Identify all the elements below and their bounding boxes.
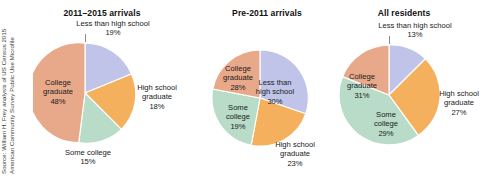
pie-chart-panel-all-residents: All residents Less than high school 13% … [324, 0, 484, 176]
label-some-college-pct: 15% [43, 157, 133, 166]
source-credit-line-2: American Community Survey Public Use Mic… [8, 29, 16, 176]
label-less-than-high-school: Less than high school 19% [52, 19, 174, 38]
chart-title: 2011–2015 arrivals [18, 8, 180, 18]
label-high-school-graduate: High school graduate 23% [266, 140, 324, 168]
pie-chart-panel-pre-2011-arrivals: Pre-2011 arrivals Less than high school … [174, 0, 324, 176]
label-some-college: Some college 15% [43, 148, 133, 167]
chart-title: All residents [324, 8, 484, 18]
label-high-school-graduate-pct: 27% [432, 108, 484, 117]
label-high-school-graduate-name2: graduate [280, 149, 310, 158]
label-less-than-high-school-name: Less than high school [378, 21, 451, 30]
source-credit-line-1: Source: William H. Frey analysis of US C… [0, 29, 8, 176]
pie-svg [210, 48, 310, 148]
source-credit: Source: William H. Frey analysis of US C… [0, 0, 18, 176]
label-less-than-high-school-pct: 19% [52, 28, 174, 37]
label-less-than-high-school: Less than high school 13% [354, 21, 476, 40]
label-high-school-graduate: High school graduate 27% [432, 89, 484, 117]
pie-chart-pre-2011-arrivals [210, 48, 310, 148]
label-high-school-graduate-name2: graduate [444, 98, 474, 107]
pie-slice-college-graduate[interactable] [213, 50, 260, 98]
label-high-school-graduate-name1: High school [439, 89, 479, 98]
pie-slice-college-graduate[interactable] [33, 43, 85, 143]
pie-svg [33, 41, 137, 145]
label-high-school-graduate-name1: High school [275, 140, 315, 149]
pie-chart-2011-2015-arrivals [33, 41, 137, 145]
pie-slice-some-college[interactable] [212, 89, 260, 145]
pie-chart-panel-2011-2015-arrivals: 2011–2015 arrivals Less than high school… [18, 0, 174, 176]
label-high-school-graduate-name2: graduate [142, 92, 172, 101]
label-less-than-high-school-name: Less than high school [76, 19, 149, 28]
label-less-than-high-school-pct: 13% [354, 30, 476, 39]
chart-title: Pre-2011 arrivals [174, 8, 342, 18]
source-credit-lines: Source: William H. Frey analysis of US C… [0, 29, 16, 176]
label-high-school-graduate-name1: High school [137, 83, 177, 92]
label-high-school-graduate-pct: 23% [266, 159, 324, 168]
label-some-college-name: Some college [65, 148, 111, 157]
pie-chart-all-residents [337, 43, 441, 147]
pie-svg [337, 43, 441, 147]
